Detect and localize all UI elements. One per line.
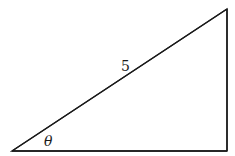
hypotenuse-side — [12, 9, 227, 151]
right-triangle-diagram: 5 θ — [0, 0, 235, 156]
angle-theta-label: θ — [44, 133, 53, 149]
hypotenuse-length-label: 5 — [121, 58, 130, 74]
